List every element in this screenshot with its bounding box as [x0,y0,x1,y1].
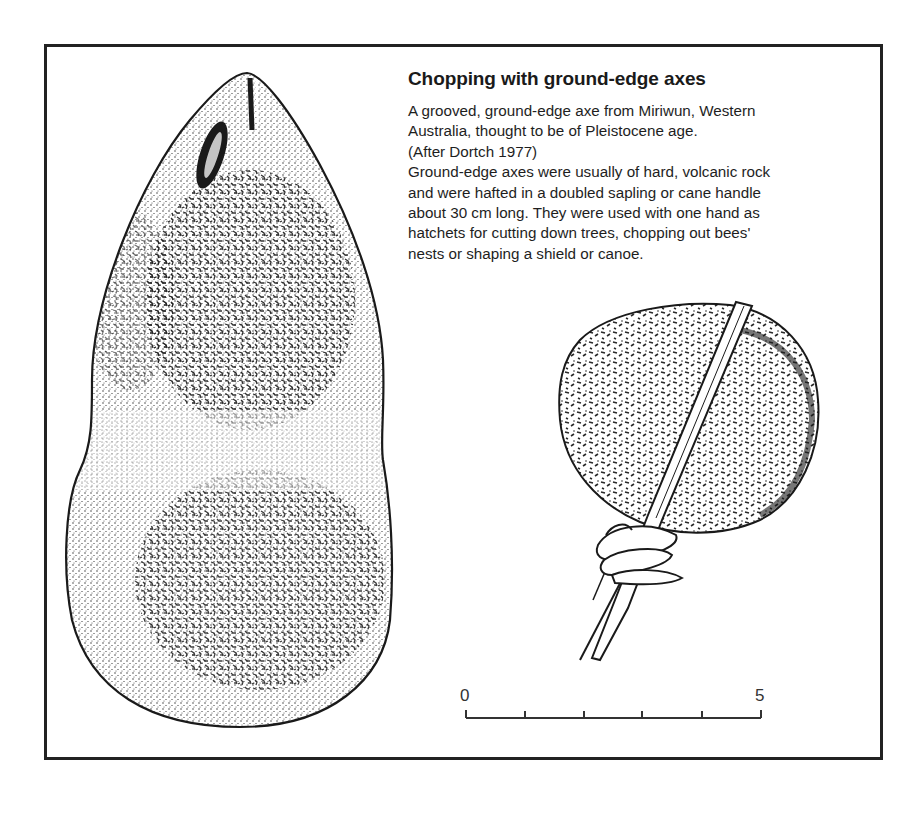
caption-line: A grooved, ground-edge axe from Miriwun,… [408,101,828,121]
grooved-axe-illustration [60,70,400,735]
scale-bar [466,710,761,718]
caption-line: Australia, thought to be of Pleistocene … [408,121,828,141]
hafted-axe-illustration [559,302,818,660]
figure-title: Chopping with ground-edge axes [408,68,706,90]
scale-start-label: 0 [460,686,469,706]
caption-line: about 30 cm long. They were used with on… [408,203,828,223]
caption-line: hatchets for cutting down trees, choppin… [408,223,828,243]
figure-caption: A grooved, ground-edge axe from Miriwun,… [408,101,828,264]
caption-line: and were hafted in a doubled sapling or … [408,183,828,203]
scale-end-label: 5 [755,686,764,706]
caption-line: Ground-edge axes were usually of hard, v… [408,162,828,182]
caption-line: (After Dortch 1977) [408,142,828,162]
caption-line: nests or shaping a shield or canoe. [408,244,828,264]
